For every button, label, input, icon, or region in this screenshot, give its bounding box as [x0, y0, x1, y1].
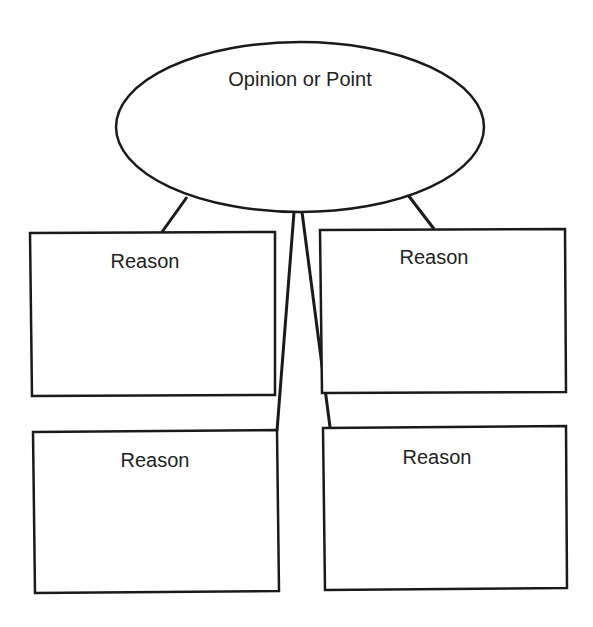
opinion-title: Opinion or Point [228, 68, 371, 91]
connector-top-left [162, 197, 187, 232]
diagram-canvas: Opinion or Point Reason Reason Reason Re… [0, 0, 593, 627]
reason-label-4: Reason [403, 446, 472, 469]
diagram-shapes [0, 0, 593, 627]
connector-bottom-left [277, 212, 294, 431]
connector-top-right [408, 195, 434, 229]
reason-label-1: Reason [111, 250, 180, 273]
reason-label-2: Reason [400, 246, 469, 269]
reason-label-3: Reason [121, 449, 190, 472]
